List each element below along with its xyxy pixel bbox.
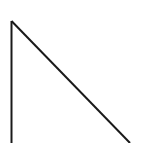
background	[0, 0, 144, 143]
triangle-diagram	[0, 0, 144, 143]
